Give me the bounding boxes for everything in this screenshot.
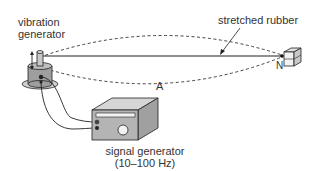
vibration-direction-arrow xyxy=(30,51,34,70)
signal-generator-label-line1: signal generator xyxy=(90,145,200,157)
string-end-dot xyxy=(280,54,284,58)
stretched-rubber-label: stretched rubber xyxy=(218,14,298,26)
clamp-block xyxy=(284,48,301,66)
vibration-generator-label-line2: generator xyxy=(18,28,65,40)
rubber-pointer-line xyxy=(222,28,240,52)
vibration-generator-label-line1: vibration xyxy=(18,16,65,28)
signal-generator-device xyxy=(92,98,158,140)
point-n-label: N xyxy=(276,60,283,72)
point-a-label: A xyxy=(156,80,163,92)
rubber-pointer-arrowhead xyxy=(220,49,225,55)
vibration-generator-label: vibration generator xyxy=(18,16,65,40)
signal-generator-label-line2: (10–100 Hz) xyxy=(90,157,200,169)
signal-generator-label: signal generator (10–100 Hz) xyxy=(90,145,200,169)
wave-envelope-upper xyxy=(40,35,282,57)
